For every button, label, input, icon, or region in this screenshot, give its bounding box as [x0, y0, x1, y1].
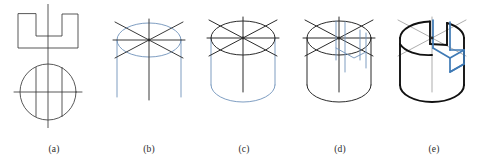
- isometric-axes: [207, 17, 279, 92]
- notch-floor-arc: [400, 44, 432, 55]
- panel-c-caption: (c): [196, 144, 292, 154]
- isometric-axes: [303, 17, 375, 92]
- figure-sheet: (a) (b): [0, 0, 480, 160]
- panel-c: (c): [196, 0, 292, 160]
- panel-a: (a): [0, 0, 108, 160]
- center-point: [148, 39, 151, 42]
- panel-d-caption: (d): [292, 144, 388, 154]
- panel-b-drawing: [103, 0, 195, 140]
- center-point: [431, 37, 434, 40]
- panel-b: (b): [103, 0, 195, 160]
- panel-e-caption: (e): [388, 144, 480, 154]
- panel-c-drawing: [196, 0, 292, 140]
- panel-b-caption: (b): [103, 144, 195, 154]
- center-point: [242, 37, 245, 40]
- notch-face-blue: [433, 20, 464, 72]
- panel-e: (e): [388, 0, 480, 160]
- panel-d-drawing: [292, 0, 388, 140]
- center-point: [337, 36, 340, 39]
- panel-a-caption: (a): [0, 144, 108, 154]
- panel-e-drawing: [388, 0, 480, 140]
- panel-d: (d): [292, 0, 388, 160]
- panel-a-drawing: [0, 0, 108, 140]
